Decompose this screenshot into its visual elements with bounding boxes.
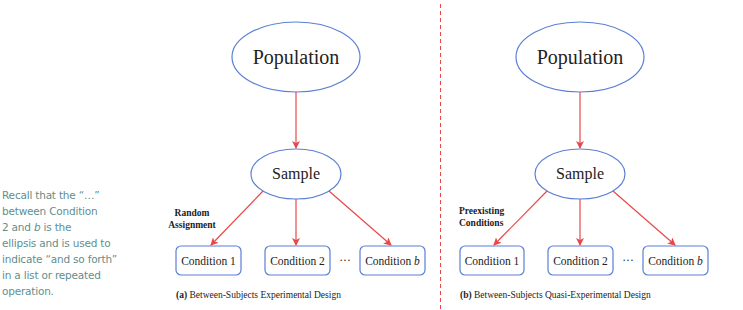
condition-b-label: Condition b [648,255,703,267]
ellipsis-dots: ··· [622,254,634,266]
design-diagram: Population Sample Random Assignment Cond… [0,0,743,310]
population-label: Population [253,46,340,69]
condition-1-label: Condition 1 [465,255,520,267]
arrow-sample-to-condition-b [613,191,675,245]
assignment-label-line2: Conditions [459,218,504,228]
assignment-label-line2: Assignment [168,220,216,230]
arrow-sample-to-condition-b [329,191,391,245]
caption-a: (a) Between-Subjects Experimental Design [176,290,341,301]
panel-a: Population Sample Random Assignment Cond… [168,22,425,301]
ellipsis-dots: ··· [339,254,351,266]
condition-2-label: Condition 2 [270,255,325,267]
panel-b: Population Sample Preexisting Conditions… [459,22,708,301]
condition-2-label: Condition 2 [553,255,608,267]
population-label: Population [537,46,624,69]
arrow-sample-to-condition-1 [211,191,263,245]
assignment-label-line1: Preexisting [459,206,504,216]
condition-b-label: Condition b [365,255,420,267]
assignment-label-line1: Random [175,208,210,218]
caption-b: (b) Between-Subjects Quasi-Experimental … [460,290,651,301]
condition-1-label: Condition 1 [181,255,236,267]
sample-label: Sample [556,165,604,183]
sample-label: Sample [272,165,320,183]
